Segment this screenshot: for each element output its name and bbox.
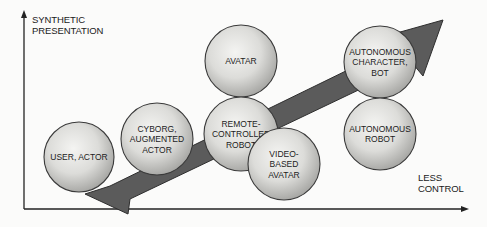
node-label-line: BOT xyxy=(371,68,388,78)
y-axis-arrowhead-icon xyxy=(21,10,27,18)
y-axis xyxy=(21,10,27,209)
diagram-canvas: USER, ACTORCYBORG,AUGMENTEDACTORAVATARRE… xyxy=(0,0,487,227)
x-axis xyxy=(24,206,469,212)
x-axis-label-line1: LESS xyxy=(418,172,464,183)
node-label-line: ROBOT xyxy=(365,134,395,144)
node-label-line: ACTOR xyxy=(142,145,172,155)
y-axis-label: SYNTHETIC PRESENTATION xyxy=(32,14,103,36)
node-label-line: USER, ACTOR xyxy=(50,152,107,162)
node-user-actor: USER, ACTOR xyxy=(44,122,114,192)
node-label-line: AVATAR xyxy=(225,56,257,66)
node-cyborg: CYBORG,AUGMENTEDACTOR xyxy=(121,103,193,175)
node-label-line: REMOTE- xyxy=(221,119,260,129)
node-avatar: AVATAR xyxy=(205,25,277,97)
node-label-line: AUGMENTED xyxy=(130,134,184,144)
node-autonomous-character: AUTONOMOUSCHARACTER,BOT xyxy=(344,26,416,98)
node-label-line: AUTONOMOUS xyxy=(349,124,411,134)
y-axis-label-line2: PRESENTATION xyxy=(32,25,103,36)
x-axis-arrowhead-icon xyxy=(461,206,469,212)
node-label-line: CHARACTER, xyxy=(352,57,407,67)
node-autonomous-robot: AUTONOMOUSROBOT xyxy=(344,98,416,170)
nodes-layer: USER, ACTORCYBORG,AUGMENTEDACTORAVATARRE… xyxy=(44,25,416,200)
node-label-line: VIDEO- xyxy=(269,149,298,159)
x-axis-label: LESS CONTROL xyxy=(418,172,464,194)
y-axis-label-line1: SYNTHETIC xyxy=(32,14,103,25)
node-label-line: CYBORG, xyxy=(137,124,176,134)
node-label-line: AUTONOMOUS xyxy=(349,47,411,57)
x-axis-label-line2: CONTROL xyxy=(418,183,464,194)
node-label-line: BASED xyxy=(270,159,299,169)
node-video-avatar: VIDEO-BASEDAVATAR xyxy=(248,128,320,200)
node-label-line: AVATAR xyxy=(268,170,300,180)
